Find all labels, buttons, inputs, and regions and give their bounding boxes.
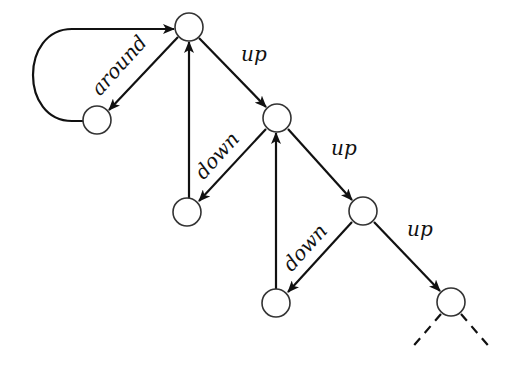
edge-continuation-right: [461, 314, 492, 350]
node-6: [262, 289, 290, 317]
label-up-2: up: [331, 136, 357, 160]
edge-continuation-left: [410, 314, 441, 350]
label-down-2: down: [278, 219, 333, 276]
label-around: around: [86, 30, 152, 100]
node-7: [437, 288, 465, 316]
node-3: [263, 104, 291, 132]
node-5: [349, 197, 377, 225]
label-up-3: up: [407, 217, 433, 241]
node-2: [83, 106, 111, 134]
node-4: [173, 198, 201, 226]
label-down-1: down: [190, 127, 245, 184]
label-up-1: up: [241, 42, 267, 66]
node-1: [175, 13, 203, 41]
state-diagram: around up down up down up: [0, 0, 519, 368]
